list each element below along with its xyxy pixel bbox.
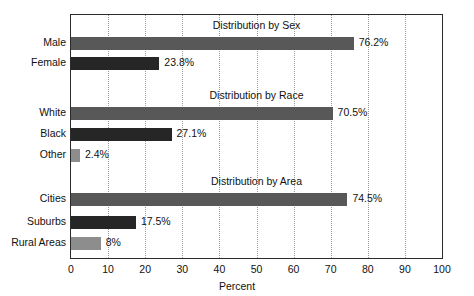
bar-value-label: 23.8% — [164, 57, 194, 68]
bar-value-label: 17.5% — [141, 216, 171, 227]
category-label: Black — [0, 128, 66, 139]
bar — [71, 107, 333, 120]
gridline-90 — [405, 15, 406, 258]
bar-value-label: 2.4% — [85, 149, 109, 160]
x-tick-label: 50 — [242, 263, 272, 275]
x-tick-label: 70 — [316, 263, 346, 275]
x-tick-label: 100 — [427, 263, 457, 275]
x-tick-label: 30 — [167, 263, 197, 275]
bar — [71, 237, 101, 250]
x-tick-label: 10 — [93, 263, 123, 275]
bar-value-label: 70.5% — [338, 107, 368, 118]
x-tick-label: 60 — [279, 263, 309, 275]
category-label: White — [0, 107, 66, 118]
category-label: Cities — [0, 193, 66, 204]
bar — [71, 193, 347, 206]
bar-value-label: 76.2% — [359, 37, 389, 48]
gridline-40 — [219, 15, 220, 258]
bar — [71, 216, 136, 229]
group-title: Distribution by Sex — [71, 19, 442, 31]
x-tick-label: 90 — [390, 263, 420, 275]
category-label: Suburbs — [0, 216, 66, 227]
bar — [71, 149, 80, 162]
category-label: Female — [0, 57, 66, 68]
x-axis-title: Percent — [0, 280, 474, 292]
bar — [71, 128, 172, 141]
bar — [71, 57, 159, 70]
x-tick-label: 20 — [130, 263, 160, 275]
gridline-50 — [257, 15, 258, 258]
bar-chart: Distribution by SexDistribution by RaceD… — [0, 0, 474, 296]
gridline-60 — [294, 15, 295, 258]
x-tick-label: 80 — [353, 263, 383, 275]
group-title: Distribution by Area — [71, 175, 442, 187]
x-tick-label: 40 — [204, 263, 234, 275]
gridline-70 — [331, 15, 332, 258]
gridline-80 — [368, 15, 369, 258]
group-title: Distribution by Race — [71, 89, 442, 101]
bar-value-label: 27.1% — [177, 128, 207, 139]
bar-value-label: 74.5% — [352, 193, 382, 204]
bar-value-label: 8% — [106, 237, 121, 248]
category-label: Other — [0, 149, 66, 160]
category-label: Rural Areas — [0, 237, 66, 248]
x-tick-label: 0 — [56, 263, 86, 275]
bar — [71, 37, 354, 50]
category-label: Male — [0, 37, 66, 48]
plot-area: Distribution by SexDistribution by RaceD… — [70, 14, 443, 259]
